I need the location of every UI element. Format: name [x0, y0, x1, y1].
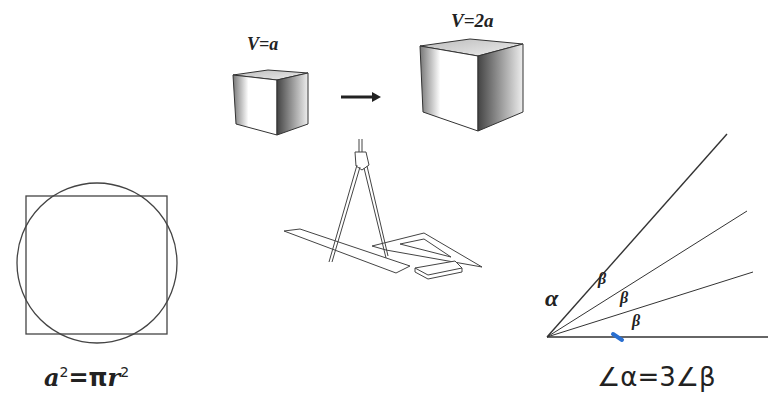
diagram-canvas [0, 0, 782, 410]
formula-eq-pi: =π [68, 364, 107, 392]
alpha-label: α [545, 285, 558, 312]
beta-label-1: β [598, 270, 606, 288]
large-cube-volume-label: V=2a [451, 10, 494, 32]
angle-trisection-formula: ∠α=3∠β [597, 362, 716, 392]
large-cube [420, 39, 523, 131]
circle-square-formula: a2=πr2 [44, 363, 129, 392]
formula-r: r [108, 363, 121, 392]
small-cube-volume-label: V=a [247, 34, 278, 55]
beta-label-3: β [632, 312, 640, 330]
beta-label-2: β [620, 289, 628, 307]
square-circle-figure [17, 183, 177, 343]
small-cube [233, 70, 308, 135]
angle-trisection-figure [547, 134, 768, 340]
formula-a: a [44, 363, 60, 392]
arrow-right-icon [341, 92, 381, 102]
formula-sup-2: 2 [120, 364, 129, 380]
drawing-tools-illustration [284, 139, 482, 279]
blue-pen-mark [613, 334, 622, 340]
